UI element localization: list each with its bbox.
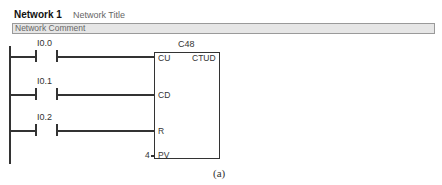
counter-name: C48 bbox=[178, 39, 195, 49]
contact-2[interactable] bbox=[10, 88, 60, 102]
contact-address-1: I0.0 bbox=[37, 38, 52, 48]
wire bbox=[151, 155, 155, 157]
pin-cu: CU bbox=[158, 53, 170, 63]
network-title[interactable]: Network Title bbox=[73, 10, 125, 20]
pin-r: R bbox=[158, 126, 164, 136]
contact-1[interactable] bbox=[10, 50, 60, 64]
wire bbox=[10, 94, 35, 96]
pin-pv: PV bbox=[158, 150, 169, 160]
contact-address-3: I0.2 bbox=[37, 112, 52, 122]
wire bbox=[10, 130, 35, 132]
wire bbox=[57, 56, 154, 58]
contact-left-bar bbox=[35, 88, 37, 100]
pv-value[interactable]: 4 bbox=[145, 150, 150, 160]
wire bbox=[10, 56, 35, 58]
contact-left-bar bbox=[35, 124, 37, 136]
network-label[interactable]: Network 1 bbox=[14, 9, 62, 20]
counter-type: CTUD bbox=[192, 53, 216, 63]
pin-cd: CD bbox=[158, 90, 170, 100]
contact-left-bar bbox=[35, 50, 37, 62]
contact-address-2: I0.1 bbox=[37, 76, 52, 86]
contact-3[interactable] bbox=[10, 124, 60, 138]
figure-caption: (a) bbox=[213, 167, 225, 179]
wire bbox=[57, 94, 154, 96]
network-comment: Network Comment bbox=[15, 23, 85, 33]
ctud-counter-box[interactable]: CU CTUD CD R PV bbox=[154, 52, 220, 159]
wire bbox=[57, 130, 154, 132]
